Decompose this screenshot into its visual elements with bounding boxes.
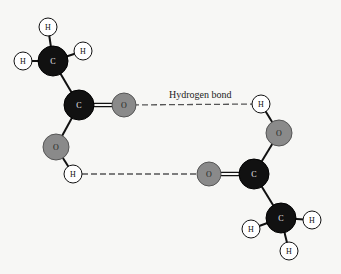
carbon-atom: C [38,46,68,76]
atom-label: C [50,57,55,66]
hydrogen-bond-line [124,104,261,105]
hydrogen-atom: H [252,95,270,113]
hydrogen-atom: H [14,52,32,70]
molecule-canvas: HHHCCOOHHOCOCHHH Hydrogen bond [0,0,341,274]
atom-label: H [258,100,264,109]
atom-label: H [80,47,86,56]
atom-label: H [286,247,292,256]
atom-layer: HHHCCOOHHOCOCHHH [14,18,321,260]
atom-label: H [45,23,51,32]
carbon-atom: C [266,203,296,233]
hydrogen-atom: H [303,211,321,229]
carbon-atom: C [64,90,94,120]
atom-label: C [76,101,81,110]
carbon-atom: C [239,159,269,189]
atom-label: C [251,170,256,179]
hydrogen-bond-layer [73,104,261,174]
hydrogen-atom: H [242,220,260,238]
atom-label: H [70,170,76,179]
atom-label: H [309,216,315,225]
hydrogen-atom: H [39,18,57,36]
atom-label: C [278,214,283,223]
hydrogen-atom: H [64,165,82,183]
oxygen-atom: O [112,93,136,117]
hydrogen-atom: H [280,242,298,260]
hydrogen-bond-caption: Hydrogen bond [169,89,232,100]
atom-label: O [121,101,127,110]
atom-label: H [20,57,26,66]
hydrogen-atom: H [74,42,92,60]
atom-label: O [276,129,282,138]
atom-label: O [53,143,59,152]
atom-label: H [248,225,254,234]
oxygen-atom: O [266,120,292,146]
hydrogen-bond-diagram: HHHCCOOHHOCOCHHH Hydrogen bond [0,0,341,274]
oxygen-atom: O [197,162,221,186]
oxygen-atom: O [43,134,69,160]
atom-label: O [206,170,212,179]
